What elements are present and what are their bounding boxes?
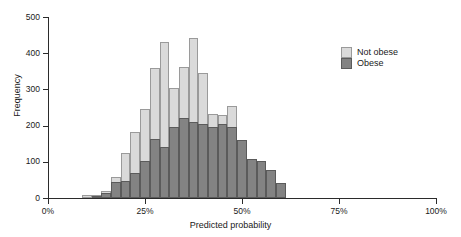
x-axis-tick-label: 100%: [411, 206, 461, 216]
histogram-bar: [121, 181, 131, 198]
bars-layer: [48, 17, 436, 198]
x-axis-tick: [436, 199, 437, 204]
histogram-bar: [82, 195, 92, 198]
y-axis-tick: [43, 126, 48, 127]
histogram-bar: [169, 127, 179, 198]
histogram-bar: [266, 170, 276, 198]
y-axis-tick: [43, 17, 48, 18]
x-axis-tick-label: 25%: [120, 206, 170, 216]
legend-swatch-obese-icon: [341, 58, 352, 69]
histogram-bar: [257, 161, 267, 198]
legend-swatch-not-obese-icon: [341, 47, 352, 58]
y-axis-line: [48, 17, 49, 199]
histogram-bar: [150, 139, 160, 198]
histogram-bar: [218, 124, 228, 198]
x-axis-tick: [145, 199, 146, 204]
histogram-bar: [198, 124, 208, 198]
histogram-bar: [130, 173, 140, 198]
histogram-bar: [111, 182, 121, 198]
y-axis-tick-label: 500: [14, 13, 40, 22]
plot-area: [48, 17, 436, 198]
histogram-bar: [189, 122, 199, 198]
legend-item-obese: Obese: [341, 58, 398, 69]
histogram-figure: 0100200300400500 0%25%50%75%100% Predict…: [0, 0, 461, 237]
histogram-bar: [227, 127, 237, 198]
x-axis-tick: [339, 199, 340, 204]
x-axis-tick: [48, 199, 49, 204]
legend-label-obese: Obese: [357, 58, 384, 69]
histogram-bar: [247, 159, 257, 198]
histogram-bar: [101, 193, 111, 198]
legend-item-not-obese: Not obese: [341, 47, 398, 58]
histogram-bar: [160, 147, 170, 198]
x-axis-tick-label: 0%: [23, 206, 73, 216]
x-axis-tick: [242, 199, 243, 204]
histogram-bar: [179, 118, 189, 198]
x-axis-title: Predicted probability: [0, 220, 461, 231]
y-axis-tick-label: 0: [14, 194, 40, 203]
x-axis-tick-label: 75%: [314, 206, 364, 216]
histogram-bar: [92, 196, 102, 198]
x-axis-tick-label: 50%: [217, 206, 267, 216]
y-axis-tick: [43, 162, 48, 163]
y-axis-tick-label: 100: [14, 157, 40, 166]
y-axis-title: Frequency: [12, 56, 23, 136]
histogram-bar: [237, 140, 247, 198]
y-axis-tick: [43, 53, 48, 54]
histogram-bar: [276, 183, 286, 198]
histogram-bar: [140, 161, 150, 198]
chart-legend: Not obese Obese: [341, 47, 398, 69]
legend-label-not-obese: Not obese: [357, 47, 398, 58]
histogram-bar: [208, 127, 218, 198]
y-axis-tick: [43, 89, 48, 90]
